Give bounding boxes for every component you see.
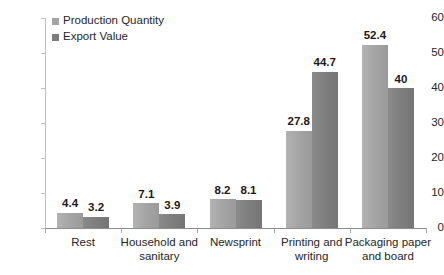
x-axis-line <box>45 228 426 229</box>
bar <box>362 45 388 228</box>
bar-group: 4.43.2 <box>57 18 109 228</box>
x-axis-tick <box>45 228 46 233</box>
bar <box>236 200 262 228</box>
legend-label: Export Value <box>63 31 128 43</box>
bar <box>57 213 83 228</box>
bar-value-label: 8.1 <box>228 185 270 197</box>
bar-value-label: 3.2 <box>75 202 117 214</box>
bar-value-label: 40 <box>380 74 422 86</box>
bar-chart: 0102030405060 4.43.27.13.98.28.127.844.7… <box>0 0 444 275</box>
bar-value-label: 7.1 <box>125 189 167 201</box>
bar-group: 8.28.1 <box>210 18 262 228</box>
x-axis-tick <box>350 228 351 233</box>
x-axis-category-label: Rest <box>39 235 127 249</box>
legend-swatch-icon <box>52 18 59 25</box>
chart-legend: Production QuantityExport Value <box>52 14 164 46</box>
x-axis-category-label: Packaging paperand board <box>344 235 432 264</box>
bar-group: 27.844.7 <box>286 18 338 228</box>
legend-swatch-icon <box>52 34 59 41</box>
legend-label: Production Quantity <box>63 15 164 27</box>
bar <box>83 217 109 228</box>
x-axis-tick <box>426 228 427 233</box>
legend-item: Production Quantity <box>52 14 164 28</box>
x-axis-tick <box>274 228 275 233</box>
bar <box>159 214 185 228</box>
x-axis-tick <box>197 228 198 233</box>
bar <box>210 199 236 228</box>
bar-value-label: 3.9 <box>151 200 193 212</box>
bar-value-label: 44.7 <box>304 57 346 69</box>
x-axis-category-label: Printing andwriting <box>268 235 356 264</box>
bar-group: 7.13.9 <box>133 18 185 228</box>
x-axis-category-label: Newsprint <box>191 235 279 249</box>
bar <box>388 88 414 228</box>
plot-area: 4.43.27.13.98.28.127.844.752.440 <box>45 18 426 228</box>
bar-value-label: 52.4 <box>354 30 396 42</box>
bar <box>286 131 312 228</box>
bar-group: 52.440 <box>362 18 414 228</box>
bar <box>312 72 338 228</box>
x-axis-category-label: Household andsanitary <box>115 235 203 264</box>
x-axis-tick <box>121 228 122 233</box>
legend-item: Export Value <box>52 30 164 44</box>
